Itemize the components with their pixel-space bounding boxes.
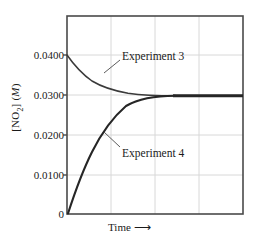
vertical-gridlines	[111, 16, 199, 214]
series-label-experiment-3: Experiment 3	[122, 50, 184, 62]
leader-line-experiment-4	[104, 132, 120, 147]
chart-figure: [NO2] (M) 0.0400 0.0300 0.0200 0.0100 0	[0, 0, 255, 246]
x-axis-title-text: Time	[108, 221, 131, 233]
arrow-right-icon: ⟶	[134, 220, 150, 234]
plot-area	[0, 0, 255, 246]
series-label-experiment-4: Experiment 4	[122, 147, 184, 159]
leader-line-experiment-3	[104, 60, 120, 73]
x-axis-title: Time ⟶	[108, 220, 150, 235]
